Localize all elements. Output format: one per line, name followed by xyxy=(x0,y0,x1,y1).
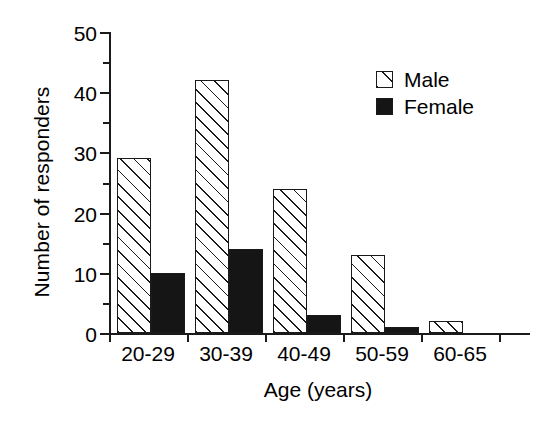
bar-female-40-49 xyxy=(307,315,341,333)
y-tick-0 xyxy=(100,333,109,335)
bar-male-30-39 xyxy=(195,80,229,333)
y-tick-minor-25 xyxy=(103,183,109,185)
y-tick-label-20: 20 xyxy=(74,203,97,224)
y-tick-label-30: 30 xyxy=(74,143,97,164)
y-axis-title: Number of responders xyxy=(30,62,54,322)
legend-item-male: Male xyxy=(376,66,474,93)
legend-label-male: Male xyxy=(404,69,450,90)
x-tick-label-60-65: 60-65 xyxy=(418,342,502,366)
x-tick-label-40-49: 40-49 xyxy=(262,342,346,366)
x-axis-title: Age (years) xyxy=(106,378,530,402)
bar-male-40-49 xyxy=(273,189,307,334)
bar-male-60-65 xyxy=(429,321,463,333)
y-tick-minor-45 xyxy=(103,62,109,64)
x-tick-label-20-29: 20-29 xyxy=(106,342,190,366)
y-tick-label-0: 0 xyxy=(85,324,97,345)
y-tick-label-10: 10 xyxy=(74,263,97,284)
filled-square-icon xyxy=(376,98,393,115)
x-tick-5 xyxy=(499,333,501,342)
y-tick-minor-15 xyxy=(103,243,109,245)
y-tick-40 xyxy=(100,92,109,94)
bar-female-50-59 xyxy=(385,327,419,333)
y-tick-20 xyxy=(100,213,109,215)
y-tick-10 xyxy=(100,273,109,275)
hatched-square-icon xyxy=(376,71,393,88)
y-tick-30 xyxy=(100,152,109,154)
y-tick-minor-35 xyxy=(103,122,109,124)
x-tick-1 xyxy=(187,333,189,342)
y-axis-line xyxy=(109,32,111,335)
legend-item-female: Female xyxy=(376,93,474,120)
y-tick-label-50: 50 xyxy=(74,23,97,44)
bar-female-30-39 xyxy=(229,249,263,333)
bar-female-20-29 xyxy=(151,273,185,333)
bar-male-20-29 xyxy=(117,158,151,333)
x-tick-label-30-39: 30-39 xyxy=(184,342,268,366)
x-tick-0 xyxy=(109,333,111,342)
bar-chart-figure: Number of responders 50 40 30 20 10 0 xyxy=(0,0,539,421)
y-tick-50 xyxy=(100,32,109,34)
bar-male-50-59 xyxy=(351,255,385,333)
x-tick-2 xyxy=(265,333,267,342)
x-tick-3 xyxy=(343,333,345,342)
y-tick-label-40: 40 xyxy=(74,83,97,104)
x-tick-label-50-59: 50-59 xyxy=(340,342,424,366)
x-axis-line xyxy=(109,333,530,335)
legend: Male Female xyxy=(376,66,474,120)
legend-label-female: Female xyxy=(404,96,474,117)
x-tick-4 xyxy=(421,333,423,342)
y-tick-minor-5 xyxy=(103,303,109,305)
